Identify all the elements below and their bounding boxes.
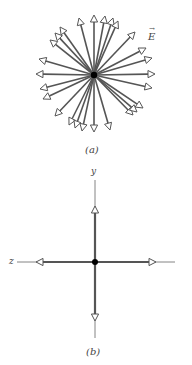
open-arrowhead-icon	[60, 27, 67, 35]
field-line	[72, 75, 94, 119]
field-line	[94, 27, 115, 75]
open-arrowhead-icon	[144, 83, 152, 90]
point-charge-a	[91, 72, 97, 78]
open-arrowhead-icon	[105, 122, 112, 130]
open-arrowhead-icon	[39, 57, 47, 64]
open-arrowhead-icon	[90, 15, 97, 22]
open-arrowhead-icon	[91, 314, 98, 321]
point-charge-b	[92, 259, 98, 265]
caption-a: (a)	[85, 144, 99, 155]
open-arrowhead-icon	[138, 48, 146, 54]
axis-label-y: y	[91, 166, 96, 176]
open-arrowhead-icon	[135, 101, 143, 108]
field-diagram-canvas	[0, 0, 192, 365]
open-arrowhead-icon	[90, 125, 97, 132]
open-arrowhead-icon	[100, 16, 107, 24]
open-arrowhead-icon	[148, 71, 155, 78]
field-line	[43, 74, 94, 75]
field-vector-label: → E	[148, 31, 155, 42]
axis-label-z: z	[9, 256, 14, 266]
vector-arrow-icon: →	[149, 25, 155, 33]
open-arrowhead-icon	[144, 57, 152, 64]
open-arrowhead-icon	[149, 258, 156, 265]
caption-b: (b)	[86, 346, 100, 357]
field-line	[94, 74, 148, 75]
open-arrowhead-icon	[80, 123, 87, 131]
open-arrowhead-icon	[91, 206, 98, 213]
open-arrowhead-icon	[77, 18, 84, 26]
open-arrowhead-icon	[43, 93, 51, 100]
open-arrowhead-icon	[36, 258, 43, 265]
open-arrowhead-icon	[36, 71, 43, 78]
field-line	[60, 75, 94, 111]
open-arrowhead-icon	[40, 84, 48, 91]
